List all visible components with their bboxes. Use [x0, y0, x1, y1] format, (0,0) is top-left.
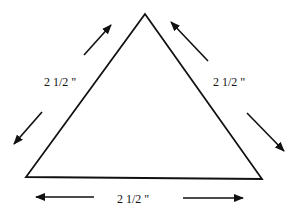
left-side-label: 2 1/2 " [44, 75, 76, 89]
arrow-right-up-icon [171, 22, 208, 61]
triangle [26, 14, 262, 179]
bottom-side-label: 2 1/2 " [117, 192, 149, 206]
arrow-left-down-icon [14, 112, 42, 144]
triangle-diagram: 2 1/2 " 2 1/2 " 2 1/2 " [0, 0, 301, 215]
right-side-label: 2 1/2 " [213, 75, 245, 89]
arrow-right-down-icon [247, 113, 284, 151]
arrow-left-up-icon [84, 25, 111, 55]
